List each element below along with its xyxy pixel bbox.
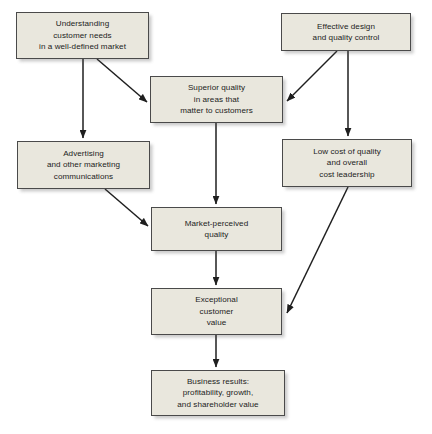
node-business-results: Business results: profitability, growth,…	[151, 370, 285, 416]
node-understanding-label: Understanding customer needs in a well-d…	[36, 18, 129, 52]
node-low-cost-of-quality-label: Low cost of quality and overall cost lea…	[310, 146, 384, 180]
node-advertising: Advertising and other marketing communic…	[17, 141, 150, 189]
edge-advertising-to-marketperceived	[105, 189, 148, 226]
node-understanding: Understanding customer needs in a well-d…	[16, 12, 149, 59]
node-market-perceived-quality: Market-perceived quality	[151, 207, 282, 251]
node-market-perceived-quality-label: Market-perceived quality	[182, 218, 252, 241]
node-effective-design-label: Effective design and quality control	[310, 21, 383, 44]
node-advertising-label: Advertising and other marketing communic…	[44, 148, 123, 182]
node-exceptional-customer-value: Exceptional customer value	[151, 288, 282, 335]
node-business-results-label: Business results: profitability, growth,…	[174, 376, 261, 410]
edge-effective-to-superior	[287, 51, 337, 101]
node-low-cost-of-quality: Low cost of quality and overall cost lea…	[282, 139, 412, 187]
node-superior-quality: Superior quality in areas that matter to…	[150, 76, 283, 123]
diagram-canvas: Understanding customer needs in a well-d…	[0, 0, 432, 434]
edge-lowcost-to-exceptional	[287, 187, 348, 313]
edge-understanding-to-superior	[97, 59, 147, 102]
node-effective-design: Effective design and quality control	[281, 13, 411, 51]
node-exceptional-customer-value-label: Exceptional customer value	[192, 294, 241, 328]
node-superior-quality-label: Superior quality in areas that matter to…	[177, 82, 256, 116]
